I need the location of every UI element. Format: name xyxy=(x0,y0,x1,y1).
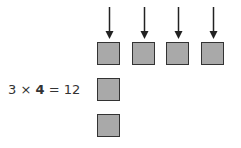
equation: 3 × 4 = 12 xyxy=(8,82,80,97)
square-left-3 xyxy=(97,114,120,137)
down-arrow-icon xyxy=(104,7,115,39)
square-top-2 xyxy=(132,42,155,65)
equation-factor-b: 4 xyxy=(35,82,44,97)
square-left-2 xyxy=(97,78,120,101)
down-arrow-icon xyxy=(139,7,150,39)
square-top-3 xyxy=(166,42,189,65)
square-top-4 xyxy=(201,42,224,65)
equation-factor-a: 3 xyxy=(8,82,16,97)
equals-sign: = xyxy=(49,82,60,97)
equation-result: 12 xyxy=(64,82,81,97)
down-arrow-icon xyxy=(173,7,184,39)
square-top-1 xyxy=(97,42,120,65)
down-arrow-icon xyxy=(208,7,219,39)
times-sign: × xyxy=(20,82,31,97)
